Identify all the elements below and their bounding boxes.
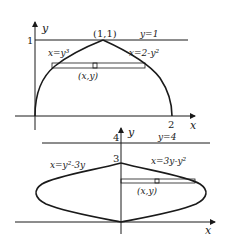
bottom-y-axis-label: y (127, 126, 135, 139)
bottom-tick-3: 3 (113, 153, 119, 164)
bottom-diagram: y 4 y=4 3 x=y²-3y x=3y-y² (x,y) x (15, 126, 215, 234)
bottom-strip-label: (x,y) (137, 186, 158, 196)
bottom-strip (121, 179, 195, 183)
bottom-right-curve-label: x=3y-y² (151, 156, 187, 166)
top-point-label: (1,1) (93, 28, 117, 39)
top-strip-marker (93, 63, 97, 68)
top-tick-2: 2 (168, 119, 174, 130)
top-strip-label: (x,y) (78, 71, 99, 81)
top-left-curve-label: x=y³ (48, 48, 70, 58)
bottom-left-curve-label: x=y²-3y (50, 160, 86, 170)
top-line-label: y=1 (139, 29, 158, 39)
top-right-curve-label: x=2-y² (129, 48, 159, 58)
top-diagram: y 1 (1,1) y=1 x=y³ x=2-y² (x,y) 2 x (15, 22, 197, 132)
diagram-canvas: y 1 (1,1) y=1 x=y³ x=2-y² (x,y) 2 x y 4 … (0, 0, 226, 234)
bottom-x-axis-label: x (205, 224, 212, 234)
top-tick-1: 1 (27, 35, 33, 46)
bottom-line-label: y=4 (157, 132, 177, 142)
bottom-strip-marker (155, 179, 159, 183)
bottom-left-curve (36, 163, 121, 222)
top-x-axis-label: x (190, 119, 197, 132)
bottom-right-curve (121, 163, 206, 222)
top-y-axis-label: y (41, 22, 49, 35)
top-strip (52, 63, 145, 68)
bottom-tick-4: 4 (113, 132, 119, 143)
